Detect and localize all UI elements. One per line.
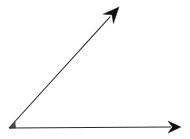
diagram-canvas	[0, 0, 190, 139]
angle-diagram-figure: Acute angle formed by two rays	[0, 0, 190, 139]
scan-noise-overlay	[0, 0, 190, 139]
